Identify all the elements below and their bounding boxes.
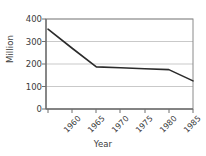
data-series-line (48, 29, 193, 81)
gridlines (46, 19, 193, 87)
line-chart: Million Year 0 100 200 300 400 1960 1965… (0, 0, 206, 156)
plot-area (0, 0, 206, 156)
